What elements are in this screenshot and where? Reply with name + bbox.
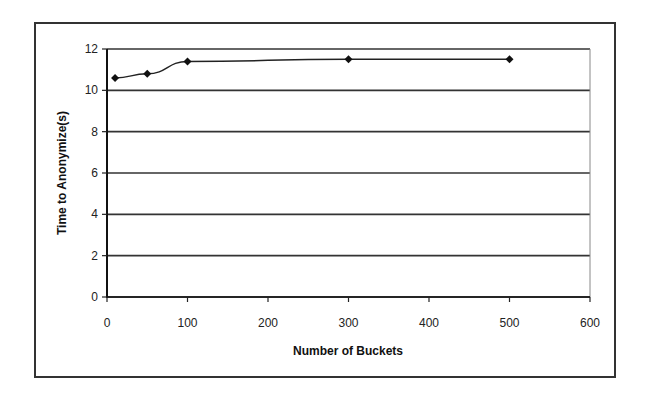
y-tick-label: 12 [85,42,99,56]
data-point-marker [506,55,514,63]
x-axis-title: Number of Buckets [293,344,403,358]
y-axis-title: Time to Anonymize(s) [55,111,69,235]
y-tick-label: 6 [91,166,98,180]
data-point-marker [111,74,119,82]
x-axis-ticks: 0100200300400500600 [104,297,601,330]
y-tick-label: 10 [85,83,99,97]
y-tick-label: 0 [91,290,98,304]
data-point-marker [143,70,151,78]
x-tick-label: 100 [177,316,197,330]
y-tick-label: 2 [91,249,98,263]
y-tick-label: 4 [91,207,98,221]
data-point-marker [184,57,192,65]
x-tick-label: 200 [258,316,278,330]
y-axis-ticks: 024681012 [85,42,107,304]
x-tick-label: 600 [580,316,600,330]
data-point-marker [345,55,353,63]
x-tick-label: 300 [338,316,358,330]
data-series [111,55,513,82]
x-tick-label: 400 [419,316,439,330]
y-tick-label: 8 [91,125,98,139]
series-line [115,59,509,78]
x-tick-label: 500 [499,316,519,330]
x-tick-label: 0 [104,316,111,330]
gridlines [107,49,590,297]
line-chart: 024681012 0100200300400500600 Number of … [0,0,648,400]
